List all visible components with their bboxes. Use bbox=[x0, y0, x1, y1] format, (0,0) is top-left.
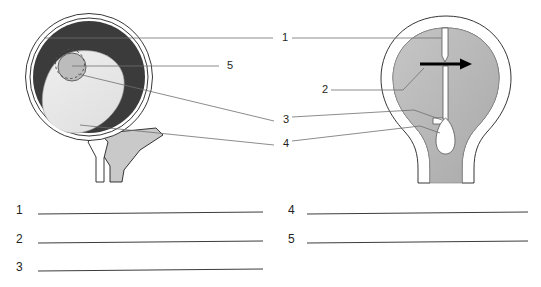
central-canal bbox=[443, 66, 448, 120]
answer-line-3[interactable] bbox=[38, 269, 263, 271]
answer-number-4: 4 bbox=[288, 203, 295, 217]
left-diagram-ovary bbox=[26, 14, 164, 183]
answer-number-2: 2 bbox=[16, 232, 23, 246]
leader-label-5: 5 bbox=[227, 59, 233, 71]
answer-blank-1[interactable]: 1 bbox=[16, 203, 263, 217]
answer-line-4[interactable] bbox=[307, 212, 528, 214]
leader-label-4: 4 bbox=[283, 137, 289, 149]
leader-label-2: 2 bbox=[322, 83, 328, 95]
answer-line-5[interactable] bbox=[307, 241, 528, 243]
answer-blanks: 1 2 3 4 5 bbox=[16, 203, 528, 274]
answer-blank-5[interactable]: 5 bbox=[288, 232, 528, 246]
answer-blank-3[interactable]: 3 bbox=[16, 260, 263, 274]
small-gray-follicle-circle bbox=[58, 53, 86, 81]
answer-line-2[interactable] bbox=[38, 241, 263, 243]
answer-number-3: 3 bbox=[16, 260, 23, 274]
right-diagram-uterus bbox=[381, 16, 511, 183]
answer-blank-4[interactable]: 4 bbox=[288, 203, 528, 217]
leader-label-1: 1 bbox=[282, 31, 288, 43]
answer-line-1[interactable] bbox=[38, 212, 263, 214]
answer-number-1: 1 bbox=[16, 203, 23, 217]
leader-label-group: 1 5 2 3 4 bbox=[227, 31, 328, 149]
answer-blank-2[interactable]: 2 bbox=[16, 232, 263, 246]
leader-label-3: 3 bbox=[283, 113, 289, 125]
top-slit-channel bbox=[442, 28, 448, 62]
worksheet-page: 1 5 2 3 4 1 2 3 4 bbox=[0, 0, 541, 287]
answer-number-5: 5 bbox=[288, 232, 295, 246]
diagram-canvas: 1 5 2 3 4 1 2 3 4 bbox=[0, 0, 541, 287]
